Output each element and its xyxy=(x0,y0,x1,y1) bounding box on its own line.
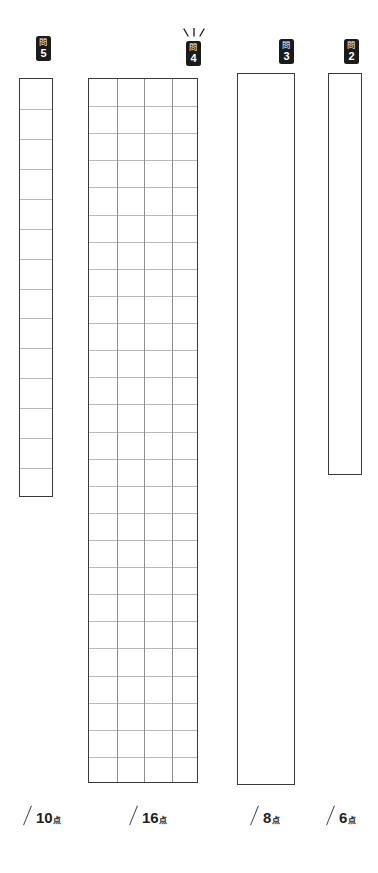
answer-sheet: 問 5 問 4 問 3 問 2 10 点 16 点 xyxy=(0,0,378,873)
badge-number-label: 4 xyxy=(190,53,196,64)
grid-row-line xyxy=(89,323,197,324)
grid-row-line xyxy=(89,377,197,378)
badge-number-label: 3 xyxy=(283,51,289,62)
score-unit: 点 xyxy=(159,814,167,825)
grid-row-line xyxy=(89,432,197,433)
badge-kanji-label: 問 xyxy=(282,41,290,49)
grid-row-line xyxy=(89,242,197,243)
score-label-question-5: 10 点 xyxy=(22,806,61,826)
grid-lines-question-3 xyxy=(238,74,294,784)
grid-row-line xyxy=(89,703,197,704)
grid-row-line xyxy=(89,567,197,568)
grid-row-line xyxy=(89,215,197,216)
grid-row-line xyxy=(89,540,197,541)
ruled-lines-question-5 xyxy=(20,79,52,496)
score-points: 6 xyxy=(339,809,347,826)
score-unit: 点 xyxy=(272,814,280,825)
score-label-question-4: 16 点 xyxy=(128,806,167,826)
grid-row-line xyxy=(89,594,197,595)
score-points: 16 xyxy=(142,809,158,826)
grid-lines-question-4 xyxy=(89,79,197,782)
question-badge-3: 問 3 xyxy=(279,39,294,64)
grid-row-line xyxy=(89,648,197,649)
grid-row-line xyxy=(20,378,52,379)
score-unit: 点 xyxy=(53,814,61,825)
grid-row-line xyxy=(20,408,52,409)
grid-column-line xyxy=(144,79,145,782)
grid-row-line xyxy=(20,109,52,110)
grid-row-line xyxy=(89,730,197,731)
score-label-question-2: 6 点 xyxy=(325,806,356,826)
badge-kanji-label: 問 xyxy=(39,38,47,46)
grid-row-line xyxy=(89,106,197,107)
slash-icon xyxy=(325,806,338,823)
grid-row-line xyxy=(89,350,197,351)
answer-box-question-2[interactable] xyxy=(328,73,362,475)
score-unit: 点 xyxy=(348,814,356,825)
grid-row-line xyxy=(20,229,52,230)
grid-row-line xyxy=(89,187,197,188)
grid-row-line xyxy=(89,757,197,758)
question-badge-5: 問 5 xyxy=(36,36,51,61)
grid-column-line xyxy=(172,79,173,782)
grid-row-line xyxy=(20,199,52,200)
grid-row-line xyxy=(20,169,52,170)
slash-icon xyxy=(128,806,141,823)
grid-row-line xyxy=(89,459,197,460)
question-badge-2: 問 2 xyxy=(344,39,359,64)
badge-kanji-label: 問 xyxy=(347,41,355,49)
grid-row-line xyxy=(89,269,197,270)
score-points: 10 xyxy=(36,809,52,826)
grid-row-line xyxy=(20,289,52,290)
grid-row-line xyxy=(89,160,197,161)
grid-row-line xyxy=(20,438,52,439)
badge-number-label: 5 xyxy=(40,48,46,59)
badge-kanji-label: 問 xyxy=(189,43,197,51)
grid-row-line xyxy=(89,133,197,134)
grid-row-line xyxy=(20,318,52,319)
grid-row-line xyxy=(89,621,197,622)
answer-box-question-3[interactable] xyxy=(237,73,295,785)
grid-row-line xyxy=(20,348,52,349)
grid-row-line xyxy=(20,139,52,140)
grid-row-line xyxy=(20,468,52,469)
score-points: 8 xyxy=(263,809,271,826)
grid-row-line xyxy=(89,404,197,405)
grid-row-line xyxy=(89,296,197,297)
slash-icon xyxy=(22,806,35,823)
badge-number-label: 2 xyxy=(348,51,354,62)
grid-row-line xyxy=(20,259,52,260)
sparkle-icon xyxy=(181,28,207,40)
grid-row-line xyxy=(89,486,197,487)
grid-lines-question-2 xyxy=(329,74,361,474)
grid-column-line xyxy=(117,79,118,782)
answer-box-question-4[interactable] xyxy=(88,78,198,783)
score-label-question-3: 8 点 xyxy=(249,806,280,826)
slash-icon xyxy=(249,806,262,823)
grid-row-line xyxy=(89,513,197,514)
grid-row-line xyxy=(89,676,197,677)
question-badge-4: 問 4 xyxy=(186,41,201,66)
answer-box-question-5[interactable] xyxy=(19,78,53,497)
